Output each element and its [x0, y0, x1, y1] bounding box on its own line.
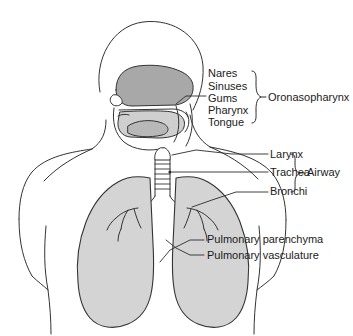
- lung-right: [77, 177, 153, 328]
- trachea-rings: [155, 164, 170, 189]
- label-pharynx: Pharynx: [208, 104, 249, 116]
- larynx: [155, 148, 171, 160]
- pharynx-posterior-wall: [186, 104, 192, 146]
- label-nares: Nares: [208, 67, 238, 79]
- clavicle-right: [210, 147, 258, 179]
- label-airway: Airway: [307, 166, 341, 178]
- label-trachea: Trachea: [270, 166, 311, 178]
- armpit-right: [257, 276, 274, 290]
- neck-right: [190, 115, 210, 147]
- label-group-oronasopharynx: Nares Sinuses Gums Pharynx Tongue Oronas…: [208, 67, 350, 128]
- arm-left-inner: [45, 226, 51, 334]
- label-pulmonary-vasculature: Pulmonary vasculature: [207, 249, 319, 261]
- label-group-airway: Larynx Trachea Bronchi Airway: [270, 148, 341, 197]
- armpit-left: [32, 276, 48, 290]
- label-gums: Gums: [208, 92, 238, 104]
- label-oronasopharynx: Oronasopharynx: [268, 91, 350, 103]
- label-sinuses: Sinuses: [208, 80, 248, 92]
- diagram-canvas: Nares Sinuses Gums Pharynx Tongue Oronas…: [0, 0, 353, 336]
- leader-dot-trachea: [168, 170, 171, 173]
- leader-larynx: [172, 150, 268, 155]
- respiratory-system-diagram: Nares Sinuses Gums Pharynx Tongue Oronas…: [0, 0, 353, 336]
- label-larynx: Larynx: [270, 148, 304, 160]
- label-pulmonary-parenchyma: Pulmonary parenchyma: [207, 233, 324, 245]
- label-tongue: Tongue: [208, 116, 244, 128]
- brace-oronasopharynx: [252, 71, 261, 123]
- label-bronchi: Bronchi: [270, 185, 307, 197]
- neck-left: [92, 120, 106, 149]
- torso-left-side: [19, 219, 32, 276]
- tongue: [128, 121, 168, 137]
- shoulder-left: [19, 149, 92, 219]
